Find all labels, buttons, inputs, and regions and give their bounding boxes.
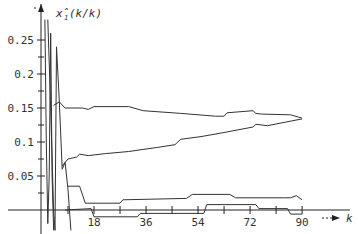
x-tick-label: 90 [295, 216, 308, 229]
series-bottom-series-2 [65, 205, 302, 217]
y-tick-label: 0.1 [14, 136, 34, 149]
y-axis-arrow-icon [38, 4, 44, 12]
x-axis-label-k: k [346, 212, 353, 225]
series-bottom-series-1 [68, 186, 302, 203]
y-tick-label: 0.25 [8, 34, 35, 47]
series-layer [45, 20, 302, 231]
y-axis-label: x̂ 1 (k/k) [55, 7, 102, 22]
y-tick-label: 0.05 [8, 170, 35, 183]
x-ticks: 1836547290 [68, 206, 309, 229]
series-upper-estimate [54, 102, 303, 118]
y-axis-label-sub: 1 [64, 14, 68, 22]
x-axis-label: k [322, 212, 353, 225]
y-axis-label-tail: (k/k) [69, 7, 102, 20]
x-axis-arrow-icon [332, 215, 340, 221]
y-axis [34, 4, 44, 234]
y-tick-label: 0.15 [8, 102, 35, 115]
x-tick-label: 36 [139, 216, 152, 229]
y-tick-label: 0.2 [14, 68, 34, 81]
x-tick-label: 18 [87, 216, 100, 229]
series-lower-estimate [62, 119, 302, 166]
chart: 0.050.10.150.20.25 1836547290 x̂ 1 (k/k)… [0, 0, 358, 234]
x-tick-label: 72 [243, 216, 256, 229]
y-ticks: 0.050.10.150.20.25 [8, 34, 46, 193]
x-tick-label: 54 [191, 216, 205, 229]
